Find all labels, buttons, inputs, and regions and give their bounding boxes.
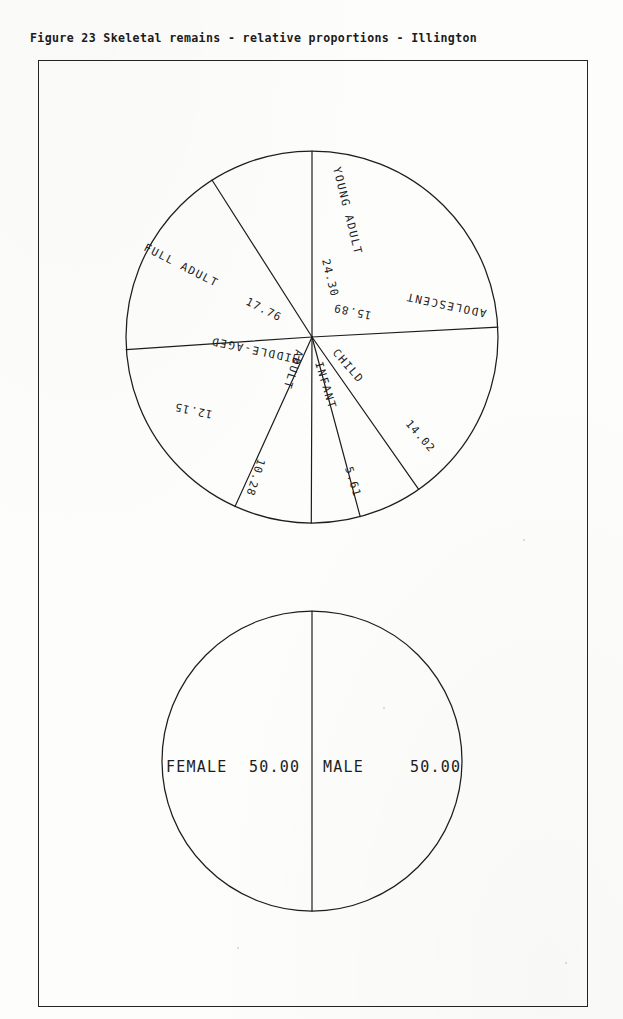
age-pie-value-labels: 24.30 15.89 14.02 5.61 10.28 12.15 17.76 (173, 258, 438, 499)
sex-value-female: 50.00 (249, 758, 300, 776)
slice-value-adolescent: 15.89 (332, 301, 372, 322)
slice-label-adolescent: ADOLESCENT (404, 290, 487, 320)
sex-label-male: MALE (323, 758, 364, 776)
slice-value-infant: 5.61 (342, 465, 363, 498)
slice-value-young-adult: 24.30 (319, 258, 341, 299)
age-pie-category-labels: YOUNG ADULT ADOLESCENT CHILD INFANT ADUL… (142, 166, 488, 411)
spoke-145deg (312, 337, 419, 489)
slice-label-full-adult: FULL ADULT (142, 241, 221, 290)
slice-label-child: CHILD (330, 346, 367, 386)
slice-value-adult: 10.28 (243, 457, 267, 498)
figure-page: Figure 23 Skeletal remains - relative pr… (0, 0, 623, 1019)
age-pie-spokes (126, 151, 498, 523)
sex-label-female: FEMALE (166, 758, 227, 776)
slice-value-child: 14.02 (403, 417, 438, 455)
age-categories-pie: YOUNG ADULT ADOLESCENT CHILD INFANT ADUL… (126, 151, 498, 523)
slice-label-young-adult: YOUNG ADULT (330, 166, 364, 257)
spoke-87deg (312, 327, 498, 337)
slice-label-infant: INFANT (312, 360, 339, 411)
spoke-215deg (311, 337, 312, 523)
slice-value-middle-aged: 12.15 (173, 400, 213, 421)
charts-canvas: YOUNG ADULT ADOLESCENT CHILD INFANT ADUL… (0, 0, 623, 1019)
sex-value-male: 50.00 (410, 758, 461, 776)
slice-value-full-adult: 17.76 (244, 295, 284, 324)
sex-ratio-pie: FEMALE 50.00 MALE 50.00 (162, 611, 462, 911)
